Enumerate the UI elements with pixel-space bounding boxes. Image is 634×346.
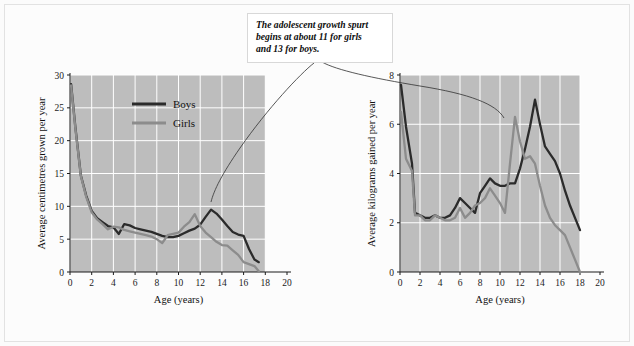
x-axis-title: Age (years) [475,294,525,306]
x-axis-title: Age (years) [154,294,204,306]
x-tick-label: 6 [133,278,138,288]
x-tick-label: 0 [398,278,403,288]
x-tick-label: 10 [495,278,505,288]
y-tick-label: 0 [59,268,64,278]
x-tick-label: 8 [478,278,483,288]
x-tick-label: 20 [595,278,605,288]
y-tick-label: 30 [55,71,65,81]
legend-label-girls: Girls [173,117,195,129]
y-tick-label: 5 [59,235,64,245]
callout-line-2: begins at about 11 for girls [256,31,384,43]
x-tick-label: 0 [68,278,73,288]
x-tick-label: 12 [195,278,205,288]
y-tick-label: 25 [55,103,65,113]
y-tick-label: 15 [55,169,65,179]
x-tick-label: 2 [418,278,423,288]
chart-height-velocity: 02468101214161820051015202530Age (years)… [36,71,292,307]
x-tick-label: 20 [282,278,292,288]
x-tick-label: 16 [555,278,565,288]
x-tick-label: 12 [515,278,525,288]
callout-line-1: The adolescent growth spurt [256,19,384,31]
x-tick-label: 14 [217,278,227,288]
x-tick-label: 2 [89,278,94,288]
y-axis-title: Average kilograms gained per year [366,100,377,247]
y-axis-title: Average centimetres grown per year [36,97,47,249]
y-tick-label: 8 [389,71,394,81]
chart-weight-velocity: 0246810121416182002468Age (years)Average… [366,71,605,307]
y-tick-label: 0 [389,268,394,278]
legend-label-boys: Boys [173,98,196,110]
growth-spurt-callout: The adolescent growth spurt begins at ab… [247,13,393,63]
x-tick-label: 18 [575,278,585,288]
y-tick-label: 2 [389,218,394,228]
x-tick-label: 4 [438,278,443,288]
y-tick-label: 4 [389,169,394,179]
x-tick-label: 14 [535,278,545,288]
x-tick-label: 8 [154,278,159,288]
x-tick-label: 6 [458,278,463,288]
x-tick-label: 10 [174,278,184,288]
x-tick-label: 16 [239,278,249,288]
y-tick-label: 6 [389,120,394,130]
callout-line-3: and 13 for boys. [256,43,384,55]
growth-velocity-figure: 02468101214161820051015202530Age (years)… [0,0,634,346]
x-tick-label: 18 [261,278,271,288]
y-tick-label: 20 [55,136,65,146]
x-tick-label: 4 [111,278,116,288]
y-tick-label: 10 [55,202,65,212]
